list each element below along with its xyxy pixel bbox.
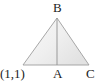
vertex-label-a: A [53, 67, 62, 80]
triangle-shape [23, 18, 89, 65]
vertex-label-c: C [86, 67, 95, 80]
base-left-coordinate-label: (1,1) [0, 67, 25, 80]
vertex-label-b: B [53, 1, 62, 14]
